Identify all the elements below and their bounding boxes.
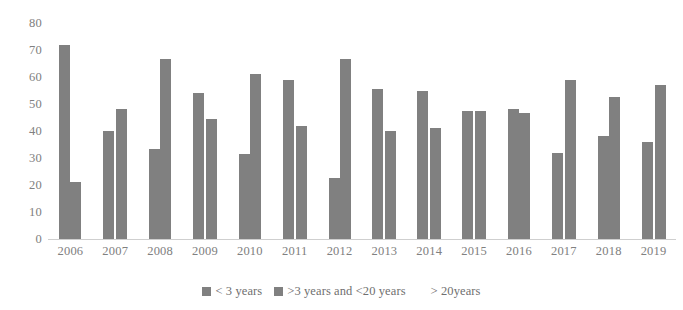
bar (296, 126, 307, 239)
x-axis-tick: 2018 (586, 244, 631, 259)
legend-item[interactable]: > 20years (418, 285, 481, 298)
bar-group (508, 23, 530, 239)
y-axis-tick: 20 (0, 179, 42, 191)
bar (609, 97, 620, 239)
legend-item[interactable]: < 3 years (202, 285, 262, 298)
bar (160, 59, 171, 239)
bar (552, 153, 563, 239)
bar-group (329, 23, 351, 239)
legend-label: < 3 years (215, 285, 262, 298)
bar (642, 142, 653, 239)
bar-group (417, 23, 441, 239)
legend-label: >3 years and <20 years (287, 285, 405, 298)
y-axis: 80706050403020100 (0, 12, 42, 250)
bar (340, 59, 351, 239)
bar (149, 149, 160, 239)
bar-group (598, 23, 620, 239)
bar (655, 85, 666, 239)
bar (283, 80, 294, 239)
bar (372, 89, 383, 239)
y-axis-tick: 60 (0, 71, 42, 83)
bar-group (552, 23, 576, 239)
bar (193, 93, 204, 239)
x-axis-tick: 2016 (497, 244, 542, 259)
bar (116, 109, 127, 239)
y-axis-tick: 40 (0, 125, 42, 137)
bar (598, 136, 609, 239)
bar (70, 182, 81, 239)
y-axis-tick: 80 (0, 17, 42, 29)
x-axis-tick: 2009 (183, 244, 228, 259)
x-axis-tick: 2012 (317, 244, 362, 259)
legend-label: > 20years (431, 285, 481, 298)
y-axis-tick: 10 (0, 206, 42, 218)
y-axis-tick: 30 (0, 152, 42, 164)
legend-item[interactable]: >3 years and <20 years (274, 285, 405, 298)
bar (329, 178, 340, 239)
bar (385, 131, 396, 239)
bar-group (149, 23, 171, 239)
bar-group (193, 23, 217, 239)
plot-area (48, 23, 676, 239)
bar (508, 109, 519, 239)
x-axis-tick: 2015 (452, 244, 497, 259)
x-axis-tick: 2019 (631, 244, 676, 259)
bar-group (103, 23, 127, 239)
bar (103, 131, 114, 239)
chart-legend: < 3 years>3 years and <20 years> 20years (0, 281, 683, 301)
bar (239, 154, 250, 239)
bar (206, 119, 217, 239)
legend-swatch-icon (202, 287, 211, 296)
x-axis: 2006200720082009201020112012201320142015… (48, 244, 676, 264)
x-axis-tick: 2006 (48, 244, 93, 259)
bar-group (462, 23, 486, 239)
x-axis-tick: 2008 (138, 244, 183, 259)
bar (475, 111, 486, 239)
bar-chart: 80706050403020100 2006200720082009201020… (0, 0, 683, 310)
bar (250, 74, 261, 239)
y-axis-tick: 70 (0, 44, 42, 56)
x-axis-tick: 2013 (362, 244, 407, 259)
bar (59, 45, 70, 239)
x-axis-tick: 2010 (227, 244, 272, 259)
x-axis-tick: 2014 (407, 244, 452, 259)
bar (565, 80, 576, 239)
bar (519, 113, 530, 239)
legend-swatch-icon (418, 287, 427, 296)
bar (430, 128, 441, 239)
bar (462, 111, 473, 239)
x-axis-tick: 2017 (541, 244, 586, 259)
bar-group (239, 23, 261, 239)
legend-swatch-icon (274, 287, 283, 296)
bar (417, 91, 428, 240)
x-axis-tick: 2007 (93, 244, 138, 259)
y-axis-tick: 50 (0, 98, 42, 110)
y-axis-tick: 0 (0, 233, 42, 245)
bar-group (372, 23, 396, 239)
bar-group (59, 23, 81, 239)
bar-group (283, 23, 307, 239)
bar-group (642, 23, 666, 239)
x-axis-tick: 2011 (272, 244, 317, 259)
